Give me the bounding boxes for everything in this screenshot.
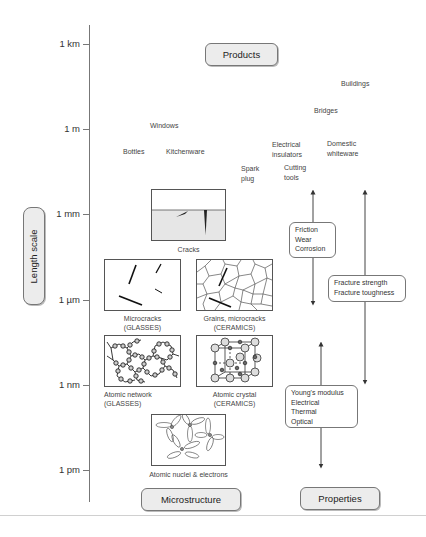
property-optical: Optical — [291, 417, 352, 427]
property-thermal: Thermal — [291, 407, 352, 417]
property-friction: Friction — [295, 225, 330, 235]
property-box-surface: Friction Wear Corrosion — [289, 222, 336, 258]
property-wear: Wear — [295, 235, 330, 245]
property-box-physical: Young's modulus Electrical Thermal Optic… — [285, 385, 358, 428]
footer-divider — [0, 515, 426, 516]
property-youngs-modulus: Young's modulus — [291, 388, 352, 398]
property-box-fracture: Fracture strength Fracture toughness — [328, 275, 406, 302]
property-arrows — [0, 0, 426, 537]
property-fracture-strength: Fracture strength — [334, 278, 400, 288]
property-corrosion: Corrosion — [295, 244, 330, 254]
property-electrical: Electrical — [291, 398, 352, 408]
property-fracture-toughness: Fracture toughness — [334, 288, 400, 298]
